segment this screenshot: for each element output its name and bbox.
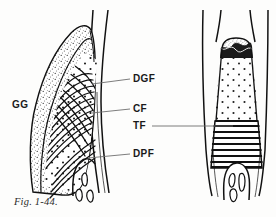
- left-bone-marrow-space-a: [82, 173, 88, 186]
- right-tooth-line-inner-left: [216, 10, 221, 42]
- right-tooth-line-inner-right: [250, 10, 255, 42]
- label-dpf: DPF: [133, 149, 154, 159]
- label-cf: CF: [133, 104, 147, 114]
- right-panel-group: [203, 10, 270, 202]
- label-tf: TF: [133, 121, 146, 131]
- figure-caption: Fig. 1-44.: [14, 196, 58, 207]
- right-tf-fibers: [205, 126, 268, 162]
- figure-container: GG DGF CF TF DPF Fig. 1-44.: [0, 0, 276, 217]
- left-bone-marrow-space-c: [87, 190, 94, 202]
- left-bone-marrow-space-b: [76, 189, 83, 201]
- left-tooth-outer-line: [101, 10, 109, 193]
- leader-line-cf: [92, 109, 130, 113]
- right-marrow-space-b: [239, 173, 245, 191]
- label-gg: GG: [12, 100, 28, 110]
- label-dgf: DGF: [133, 74, 155, 84]
- left-panel-group: [30, 10, 120, 205]
- leader-lines-group: [88, 79, 233, 158]
- right-marrow-space-c: [230, 189, 237, 202]
- leader-line-dgf: [92, 79, 130, 84]
- right-marrow-space-a: [229, 174, 235, 188]
